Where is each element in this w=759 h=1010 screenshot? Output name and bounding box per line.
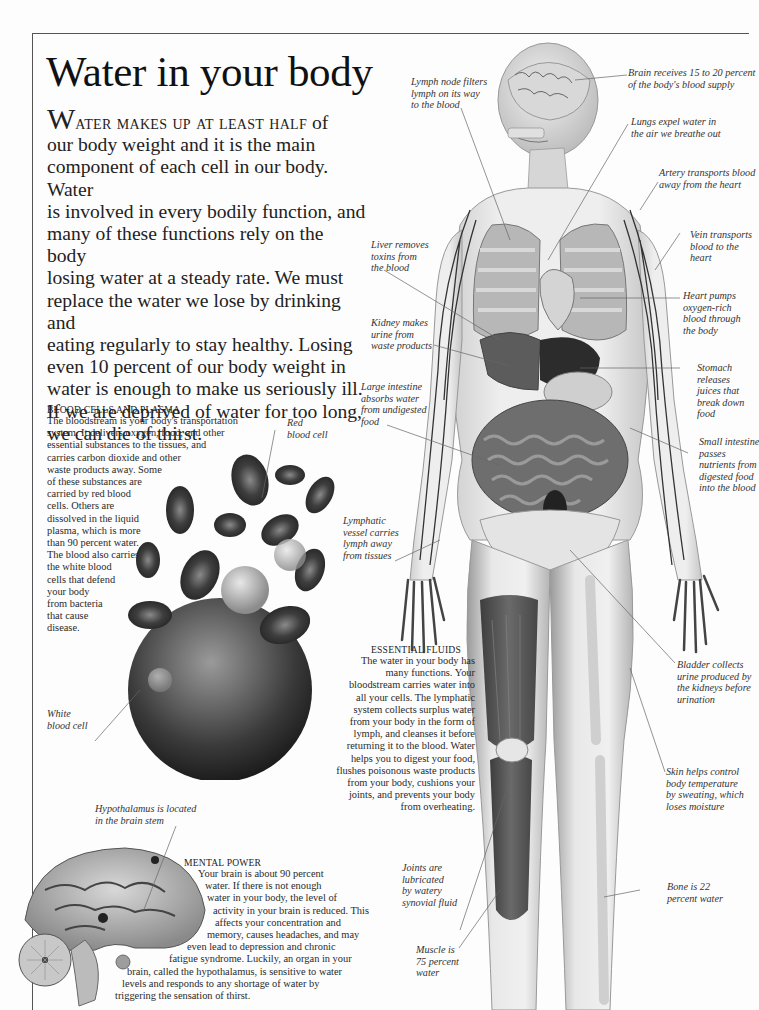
section-heading-mental: Mental power: [110, 857, 415, 868]
label-line: urine from: [371, 329, 432, 341]
label-line: by watery: [402, 885, 457, 897]
label-red-blood-cell: Red blood cell: [287, 417, 327, 440]
label-line: lymph on its way: [411, 88, 487, 100]
label-line: waste products: [371, 340, 432, 352]
label-line: by sweating, which: [666, 789, 744, 801]
label-line: blood to the: [690, 241, 752, 253]
body-line: essential substances to the tissues, and: [47, 439, 238, 451]
label-line: vessel carries: [343, 527, 399, 539]
body-line: many functions. Your: [303, 667, 475, 679]
body-line: levels and responds to any shortage of w…: [110, 978, 415, 990]
body-line: brain, called the hypothalamus, is sensi…: [110, 966, 415, 978]
label-line: blood through: [683, 313, 741, 325]
intro-line: eating regularly to stay healthy. Losing: [47, 334, 353, 355]
label-line: White: [47, 708, 87, 720]
body-line: carried by red blood: [47, 488, 238, 500]
label-line: passes: [699, 448, 759, 460]
label-line: the kidneys before: [677, 682, 751, 694]
label-line: Artery transports blood: [659, 167, 755, 179]
label-line: Bladder collects: [677, 659, 751, 671]
essential-fluids-section: Essential fluids The water in your body …: [303, 644, 475, 814]
label-joints: Joints are lubricated by watery synovial…: [402, 862, 457, 908]
section-body-blood: The bloodstream is your body's transport…: [47, 415, 238, 635]
label-artery: Artery transports blood away from the he…: [659, 167, 755, 190]
body-line: cells. Others are: [47, 500, 238, 512]
label-line: Vein transports: [690, 229, 752, 241]
intro-line: replace the water we lose by drinking an…: [47, 290, 341, 333]
body-line: The blood also carries: [47, 549, 238, 561]
body-line: all your cells. The lymphatic: [303, 692, 475, 704]
label-kidney: Kidney makes urine from waste products: [371, 317, 432, 352]
body-line: from bacteria: [47, 598, 238, 610]
label-line: Kidney makes: [371, 317, 432, 329]
label-skin: Skin helps control body temperature by s…: [666, 766, 744, 812]
label-line: heart: [690, 252, 752, 264]
body-line: triggering the sensation of thirst.: [110, 990, 415, 1002]
label-line: Large intestine: [361, 381, 427, 393]
body-line: system. It delivers oxygen, food, and ot…: [47, 427, 238, 439]
label-line: Lymphatic: [343, 515, 399, 527]
label-bladder: Bladder collects urine produced by the k…: [677, 659, 751, 705]
body-line: system collects surplus water: [303, 704, 475, 716]
label-bone: Bone is 22 percent water: [667, 881, 723, 904]
section-heading-fluids: Essential fluids: [303, 644, 475, 655]
label-line: food: [697, 408, 744, 420]
label-heart: Heart pumps oxygen-rich blood through th…: [683, 290, 741, 336]
body-line: fatigue syndrome. Luckily, an organ in y…: [110, 953, 415, 965]
label-line: urine produced by: [677, 671, 751, 683]
label-line: the air we breathe out: [631, 128, 721, 140]
label-stomach: Stomach releases juices that break down …: [697, 362, 744, 420]
label-line: Hypothalamus is located: [95, 803, 196, 815]
label-line: food: [361, 416, 427, 428]
body-line: waste products away. Some: [47, 464, 238, 476]
body-line: than 90 percent water.: [47, 537, 238, 549]
label-line: Lungs expel water in: [631, 116, 721, 128]
label-lymph-node: Lymph node filters lymph on its way to t…: [411, 76, 487, 111]
label-small-intestine: Small intestine passes nutrients from di…: [699, 436, 759, 494]
intro-dropcap: W: [47, 102, 75, 135]
label-line: from tissues: [343, 550, 399, 562]
mental-power-section: Mental power Your brain is about 90 perc…: [110, 857, 415, 1002]
label-line: away from the heart: [659, 179, 755, 191]
body-line: lymph, and cleanses it before: [303, 728, 475, 740]
label-line: digested food: [699, 471, 759, 483]
label-line: Red: [287, 417, 327, 429]
label-line: body temperature: [666, 778, 744, 790]
label-line: blood cell: [47, 720, 87, 732]
label-line: nutrients from: [699, 459, 759, 471]
label-line: lubricated: [402, 874, 457, 886]
label-line: break down: [697, 397, 744, 409]
label-muscle: Muscle is 75 percent water: [416, 944, 459, 979]
page-frame-top-rule: [32, 33, 749, 34]
intro-line: losing water at a steady rate. We must: [47, 267, 343, 288]
label-line: synovial fluid: [402, 897, 457, 909]
body-line: affects your concentration and: [110, 917, 415, 929]
label-vein: Vein transports blood to the heart: [690, 229, 752, 264]
intro-line: many of these functions rely on the body: [47, 223, 323, 266]
label-line: Small intestine: [699, 436, 759, 448]
body-line: from your body in the form of: [303, 716, 475, 728]
body-line: bloodstream carries water into: [303, 679, 475, 691]
label-line: Lymph node filters: [411, 76, 487, 88]
label-line: in the brain stem: [95, 815, 196, 827]
label-line: 75 percent: [416, 956, 459, 968]
body-line: of these substances are: [47, 476, 238, 488]
label-line: toxins from: [371, 251, 429, 263]
label-large-intestine: Large intestine absorbs water from undig…: [361, 381, 427, 427]
body-line: from your body, cushions your: [303, 777, 475, 789]
label-hypothalamus: Hypothalamus is located in the brain ste…: [95, 803, 196, 826]
body-line: that cause: [47, 610, 238, 622]
body-line: plasma, which is more: [47, 525, 238, 537]
intro-line: of: [307, 112, 328, 133]
label-brain: Brain receives 15 to 20 percent of the b…: [628, 67, 755, 90]
page-title: Water in your body: [46, 47, 373, 97]
label-line: Heart pumps: [683, 290, 741, 302]
label-lymphatic-vessel: Lymphatic vessel carries lymph away from…: [343, 515, 399, 561]
label-line: the body: [683, 325, 741, 337]
body-line: memory, causes headaches, and may: [110, 929, 415, 941]
label-line: juices that: [697, 385, 744, 397]
label-line: oxygen-rich: [683, 302, 741, 314]
body-line: flushes poisonous waste products: [303, 765, 475, 777]
intro-line: our body weight and it is the main: [47, 134, 315, 155]
label-line: Skin helps control: [666, 766, 744, 778]
